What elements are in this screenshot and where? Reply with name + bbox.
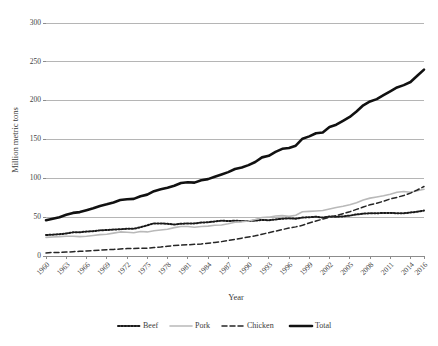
- x-tick-label: 1960: [34, 260, 51, 277]
- x-tick-label: 1981: [176, 260, 193, 277]
- legend-item-total: Total: [290, 321, 332, 330]
- x-tick-label: 1975: [136, 260, 153, 277]
- x-tick-label: 1993: [257, 260, 274, 277]
- legend-item-chicken: Chicken: [222, 321, 274, 330]
- y-tick-label: 0: [37, 251, 41, 260]
- x-tick-label: 2011: [379, 260, 396, 277]
- y-tick-label: 50: [34, 212, 42, 221]
- legend-label-total: Total: [315, 321, 332, 330]
- y-tick-label: 300: [30, 18, 42, 27]
- x-tick-label: 1990: [237, 260, 254, 277]
- x-tick-label: 1978: [156, 260, 173, 277]
- series-layer: [46, 70, 424, 253]
- legend-item-pork: Pork: [170, 321, 210, 330]
- x-tick-label: 1966: [75, 260, 92, 277]
- legend-label-beef: Beef: [143, 321, 158, 330]
- x-tick-label: 1963: [55, 260, 72, 277]
- y-tick-label: 100: [30, 173, 42, 182]
- x-tick-label: 1999: [298, 260, 315, 277]
- series-line-total: [46, 70, 424, 221]
- x-tick-label: 2016: [412, 260, 429, 277]
- y-tick-label: 200: [30, 95, 42, 104]
- chart-legend: BeefPorkChickenTotal: [118, 321, 332, 330]
- y-tick-label: 250: [30, 57, 42, 66]
- series-line-chicken: [46, 186, 424, 252]
- legend-label-chicken: Chicken: [247, 321, 274, 330]
- legend-label-pork: Pork: [195, 321, 210, 330]
- x-tick-label: 1987: [217, 260, 234, 277]
- x-tick-label: 2008: [358, 260, 375, 277]
- x-tick-label: 2005: [338, 260, 355, 277]
- x-tick-label: 1972: [115, 260, 132, 277]
- y-tick-label: 150: [30, 134, 42, 143]
- x-axis-ticks: 1960196319661969197219751978198119841987…: [34, 256, 429, 277]
- x-tick-label: 1996: [277, 260, 294, 277]
- chart-container: 050100150200250300 196019631966196919721…: [0, 0, 438, 346]
- x-tick-label: 1984: [196, 260, 213, 277]
- y-axis-ticks: 050100150200250300: [30, 18, 46, 260]
- line-chart: 050100150200250300 196019631966196919721…: [0, 0, 438, 346]
- x-axis-title: Year: [228, 292, 244, 302]
- y-axis-title: Million metric tons: [10, 107, 20, 173]
- x-tick-label: 1969: [95, 260, 112, 277]
- x-tick-label: 2002: [318, 260, 335, 277]
- legend-item-beef: Beef: [118, 321, 158, 330]
